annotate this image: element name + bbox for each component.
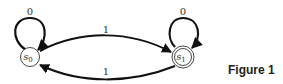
self-loop-s1: 0 (170, 6, 198, 48)
self-loop-s0: 0 (15, 6, 45, 50)
transition-label: 1 (103, 66, 109, 77)
state-s1: s1 (172, 46, 194, 68)
figure-caption: Figure 1 (228, 63, 275, 77)
state-s0: s0 (21, 48, 40, 67)
edge-s0-to-s1: 1 (40, 24, 171, 52)
transition-label: 0 (180, 6, 186, 17)
transition-label: 0 (27, 6, 33, 17)
edge-s1-to-s0: 1 (40, 65, 175, 79)
transition-label: 1 (103, 24, 109, 35)
